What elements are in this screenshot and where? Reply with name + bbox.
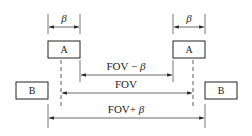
beta-left-label: β <box>60 12 67 24</box>
fov-diagram: β β A A B B FOV − β FOV <box>0 0 252 136</box>
box-b-left: B <box>16 82 48 99</box>
box-b-left-label: B <box>29 85 36 96</box>
fov-dimension: FOV <box>62 78 192 93</box>
beta-right-label: β <box>185 12 192 24</box>
fov-plus-beta-dimension: FOV+ β <box>49 103 204 118</box>
fov-minus-beta-dimension: FOV − β <box>81 60 172 75</box>
beta-left-dimension: β <box>48 12 80 34</box>
box-a-left: A <box>48 41 80 58</box>
box-b-right-label: B <box>218 85 225 96</box>
box-a-right: A <box>173 41 205 58</box>
box-a-right-label: A <box>185 44 193 55</box>
box-a-left-label: A <box>60 44 68 55</box>
beta-right-dimension: β <box>173 12 205 34</box>
fov-plus-beta-label: FOV+ β <box>108 103 145 115</box>
box-b-right: B <box>205 82 237 99</box>
fov-label: FOV <box>115 78 137 90</box>
fov-minus-beta-label: FOV − β <box>107 60 147 72</box>
